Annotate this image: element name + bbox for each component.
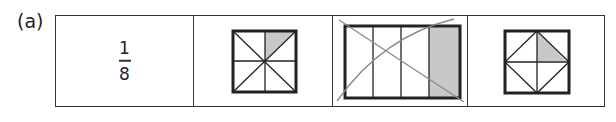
shape-cell-square-8[interactable]: [193, 16, 332, 106]
fraction-cell: 1 8: [56, 16, 193, 106]
square-8-triangles-figure: [194, 16, 333, 106]
numerator: 1: [119, 40, 130, 57]
square-diamond-figure: [468, 16, 605, 106]
question-label: (a): [17, 10, 43, 32]
fraction: 1 8: [119, 40, 131, 83]
rectangle-4-strips-figure: [333, 16, 468, 106]
denominator: 8: [119, 65, 130, 82]
fraction-table: 1 8: [55, 15, 605, 107]
fraction-bar: [119, 60, 131, 62]
shape-cell-rectangle-4[interactable]: [332, 16, 467, 106]
shape-cell-square-diamond[interactable]: [467, 16, 604, 106]
